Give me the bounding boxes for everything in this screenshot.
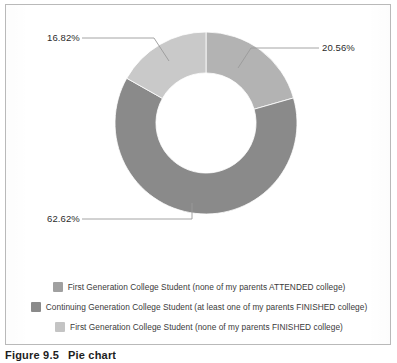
slice-percent-label-16: 16.82% [47,32,80,43]
legend-label-continuing: Continuing Generation College Student (a… [46,302,367,312]
donut-graphic [115,32,297,214]
pie-chart: 16.82% 20.56% 62.62% [6,5,392,255]
figure-caption: Figure 9.5Pie chart [5,349,116,363]
legend-item-finished: First Generation College Student (none o… [6,317,392,337]
figure-caption-number: Figure 9.5 [5,349,59,361]
legend-swatch-attended [53,282,63,292]
slice-percent-label-62: 62.62% [47,213,80,224]
slice-percent-label-20: 20.56% [322,42,355,53]
chart-legend: First Generation College Student (none o… [6,277,392,337]
legend-swatch-continuing [31,302,41,312]
legend-swatch-finished [55,322,65,332]
legend-item-continuing: Continuing Generation College Student (a… [6,297,392,317]
legend-label-attended: First Generation College Student (none o… [68,282,346,292]
figure-caption-text: Pie chart [68,349,116,361]
pie-slice [206,32,293,109]
legend-item-attended: First Generation College Student (none o… [6,277,392,297]
donut-svg [115,32,297,214]
figure-frame: 16.82% 20.56% 62.62% First Generation Co… [5,4,391,345]
legend-label-finished: First Generation College Student (none o… [70,322,343,332]
